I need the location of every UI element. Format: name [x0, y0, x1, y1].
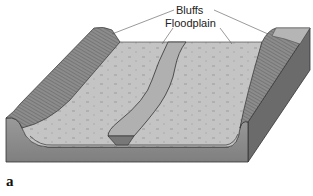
block-diagram-svg: [0, 0, 313, 196]
figure-letter: a: [6, 173, 14, 190]
floodplain-leader-right: [220, 28, 232, 44]
bluffs-label: Bluffs: [176, 5, 203, 16]
floodplain-label: Floodplain: [165, 18, 216, 29]
floodplain-diagram: Bluffs Floodplain a: [0, 0, 313, 196]
